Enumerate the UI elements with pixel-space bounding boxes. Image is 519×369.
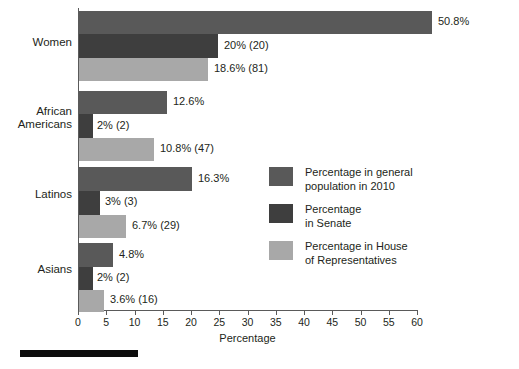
legend-item-senate: Percentage in Senate: [269, 203, 413, 230]
x-tick-25: [219, 310, 220, 315]
x-tick-label-0: 0: [75, 316, 81, 328]
legend-label-senate: Percentage in Senate: [305, 203, 361, 230]
legend-item-house: Percentage in House of Representatives: [269, 240, 413, 267]
bar-label-latinos-senate: 3% (3): [105, 195, 137, 207]
x-tick-label-35: 35: [270, 316, 282, 328]
bar-african-americans-senate: [79, 114, 93, 138]
bar-label-asians-general: 4.8%: [119, 248, 144, 260]
x-tick-label-25: 25: [213, 316, 225, 328]
x-tick-15: [163, 310, 164, 315]
category-label-women-line1: Women: [33, 36, 72, 48]
x-tick-10: [135, 310, 136, 315]
legend-swatch-senate: [269, 204, 293, 223]
x-tick-label-20: 20: [185, 316, 197, 328]
x-tick-45: [332, 310, 333, 315]
x-tick-label-45: 45: [326, 316, 338, 328]
x-tick-label-55: 55: [383, 316, 395, 328]
bar-asians-senate: [79, 267, 93, 290]
x-tick-40: [304, 310, 305, 315]
legend-label-general-population: Percentage in general population in 2010: [305, 166, 413, 193]
bar-asians-house: [79, 290, 104, 312]
category-label-asians: Asians: [0, 263, 72, 276]
bar-label-asians-house: 3.6% (16): [110, 293, 158, 305]
x-tick-label-50: 50: [355, 316, 367, 328]
plot-area: 051015202530354045505560 Percentage Wome…: [0, 0, 519, 369]
x-axis-title: Percentage: [78, 332, 417, 344]
x-tick-60: [417, 310, 418, 315]
category-label-african-americans-line2: Americans: [0, 118, 72, 131]
bar-african-americans-general: [79, 91, 167, 114]
legend-swatch-house: [269, 241, 293, 260]
bottom-rule: [20, 350, 138, 357]
x-tick-35: [276, 310, 277, 315]
legend: Percentage in general population in 2010…: [269, 166, 413, 277]
category-label-latinos-line1: Latinos: [35, 188, 72, 200]
chart-figure: 051015202530354045505560 Percentage Wome…: [0, 0, 519, 369]
bar-women-house: [79, 58, 208, 81]
bar-label-women-general: 50.8%: [438, 15, 469, 27]
bar-label-women-senate: 20% (20): [224, 39, 269, 51]
bar-label-african-americans-senate: 2% (2): [97, 119, 129, 131]
x-tick-20: [191, 310, 192, 315]
bar-women-senate: [79, 34, 218, 58]
legend-label-house: Percentage in House of Representatives: [305, 240, 408, 267]
x-tick-30: [248, 310, 249, 315]
bar-african-americans-house: [79, 138, 154, 161]
category-label-asians-line1: Asians: [37, 263, 72, 275]
bar-latinos-house: [79, 215, 126, 238]
bar-label-latinos-house: 6.7% (29): [132, 219, 180, 231]
category-label-women: Women: [0, 36, 72, 49]
bar-label-asians-senate: 2% (2): [97, 271, 129, 283]
category-label-african-americans: African Americans: [0, 105, 72, 131]
x-tick-label-30: 30: [242, 316, 254, 328]
bar-label-latinos-general: 16.3%: [198, 172, 229, 184]
category-label-latinos: Latinos: [0, 188, 72, 201]
x-tick-50: [361, 310, 362, 315]
x-tick-label-60: 60: [411, 316, 423, 328]
x-tick-label-40: 40: [298, 316, 310, 328]
x-tick-label-5: 5: [103, 316, 109, 328]
bar-label-african-americans-general: 12.6%: [173, 95, 204, 107]
x-tick-5: [106, 310, 107, 315]
x-tick-55: [389, 310, 390, 315]
legend-swatch-general-population: [269, 167, 293, 186]
bar-women-general: [79, 11, 432, 34]
bar-latinos-senate: [79, 191, 100, 215]
bar-label-african-americans-house: 10.8% (47): [160, 142, 214, 154]
bar-latinos-general: [79, 167, 192, 191]
x-tick-label-15: 15: [157, 316, 169, 328]
x-tick-label-10: 10: [129, 316, 141, 328]
bar-asians-general: [79, 243, 113, 267]
bar-label-women-house: 18.6% (81): [214, 62, 268, 74]
category-label-african-americans-line1: African: [0, 105, 72, 118]
legend-item-general-population: Percentage in general population in 2010: [269, 166, 413, 193]
